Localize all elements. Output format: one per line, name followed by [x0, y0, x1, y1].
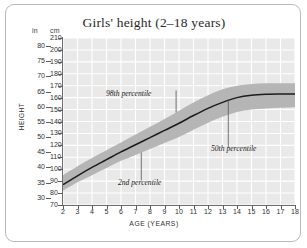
y-tick-in: 70	[32, 72, 45, 79]
y-tick-in: 65	[32, 88, 45, 95]
x-axis-title: AGE (YEARS)	[6, 220, 302, 227]
y-tick-mark-in	[46, 122, 51, 123]
x-tick-mark	[223, 205, 224, 209]
y-axis-unit-inches: in	[32, 27, 38, 34]
x-tick-mark	[208, 205, 209, 209]
x-tick-mark	[78, 205, 79, 209]
x-tick-mark	[237, 205, 238, 209]
y-tick-mark-in	[46, 76, 51, 77]
y-tick-in: 35	[32, 179, 45, 186]
x-tick-mark	[266, 205, 267, 209]
x-tick: 15	[246, 208, 258, 215]
x-tick: 7	[130, 208, 142, 215]
y-tick-mark-in	[46, 183, 51, 184]
x-tick-mark	[295, 205, 296, 209]
x-tick-mark	[194, 205, 195, 209]
x-tick-mark	[92, 205, 93, 209]
annotation-leader-lines	[63, 38, 295, 205]
x-tick: 3	[72, 208, 84, 215]
y-tick-in: 75	[32, 57, 45, 64]
x-tick-mark	[121, 205, 122, 209]
y-tick-in: 80	[32, 42, 45, 49]
y-tick-mark-in	[46, 46, 51, 47]
x-tick: 17	[275, 208, 287, 215]
x-tick: 6	[115, 208, 127, 215]
x-tick: 10	[173, 208, 185, 215]
x-tick: 12	[202, 208, 214, 215]
y-tick-mark-in	[46, 137, 51, 138]
y-tick-mark-in	[46, 107, 51, 108]
y-tick-in: 50	[32, 133, 45, 140]
x-tick-mark	[63, 205, 64, 209]
x-tick: 9	[159, 208, 171, 215]
y-tick-mark-in	[46, 152, 51, 153]
y-tick-mark-in	[46, 167, 51, 168]
figure-frame: Girls' height (2–18 years) in cm HEIGHT …	[5, 4, 301, 242]
x-tick-mark	[150, 205, 151, 209]
y-tick-in: 45	[32, 148, 45, 155]
x-tick: 5	[101, 208, 113, 215]
x-tick-mark	[165, 205, 166, 209]
x-tick-mark	[179, 205, 180, 209]
y-tick-in: 55	[32, 118, 45, 125]
y-tick-in: 30	[32, 194, 45, 201]
x-tick: 16	[260, 208, 272, 215]
x-tick-mark	[107, 205, 108, 209]
y-tick-mark-in	[46, 61, 51, 62]
y-tick-in: 40	[32, 163, 45, 170]
y-tick-in: 60	[32, 103, 45, 110]
x-tick: 13	[217, 208, 229, 215]
x-tick-mark	[252, 205, 253, 209]
x-tick: 2	[57, 208, 69, 215]
annotation-98th-percentile: 98th percentile	[106, 89, 151, 98]
x-tick: 4	[86, 208, 98, 215]
annotation-50th-percentile: 50th percentile	[211, 144, 256, 153]
annotation-2nd-percentile: 2nd percentile	[118, 178, 161, 187]
y-axis-title: HEIGHT	[18, 92, 25, 142]
x-tick: 14	[231, 208, 243, 215]
x-tick: 11	[188, 208, 200, 215]
x-tick-mark	[281, 205, 282, 209]
y-axis-unit-centimeters: cm	[50, 27, 60, 34]
x-tick: 18	[289, 208, 301, 215]
x-tick: 8	[144, 208, 156, 215]
y-tick-mark-in	[46, 198, 51, 199]
y-tick-mark-in	[46, 92, 51, 93]
x-tick-mark	[136, 205, 137, 209]
